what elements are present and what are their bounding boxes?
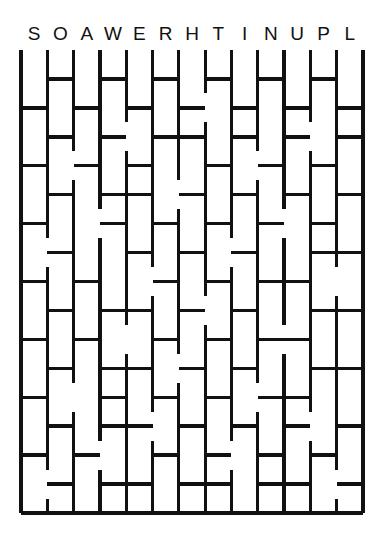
ladder-maze-graphic <box>0 0 383 542</box>
ladder-rails <box>21 50 363 513</box>
puzzle-root: SOAWERHTINUPL <box>0 0 383 542</box>
